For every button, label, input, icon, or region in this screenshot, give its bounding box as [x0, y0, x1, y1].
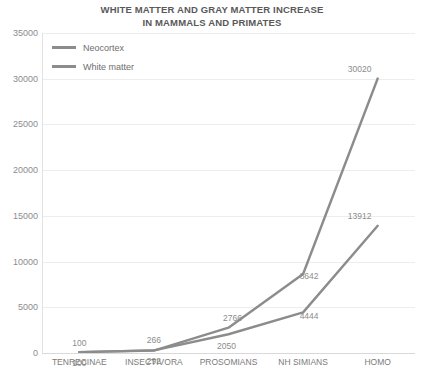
chart-title-line-1: WHITE MATTER AND GRAY MATTER INCREASE [0, 4, 424, 17]
data-label: 8642 [300, 271, 319, 281]
y-axis-tick-label: 5000 [0, 302, 38, 312]
data-label: 100 [72, 338, 86, 348]
legend-item-neocortex[interactable]: Neocortex [52, 39, 134, 56]
chart-title: WHITE MATTER AND GRAY MATTER INCREASE IN… [0, 4, 424, 29]
x-axis-category-label: NH SIMIANS [278, 357, 328, 367]
data-label: 2766 [223, 313, 242, 323]
series-line-white-matter [79, 226, 377, 352]
y-axis-tick-label: 15000 [0, 211, 38, 221]
x-axis-category-label: TENRECINAE [52, 357, 107, 367]
legend-swatch-neocortex [52, 46, 76, 49]
plot-area: 10026627668642300201002922050444413912 [42, 33, 415, 353]
y-axis-tick-label: 30000 [0, 74, 38, 84]
chart-title-line-2: IN MAMMALS AND PRIMATES [0, 17, 424, 30]
legend-label-neocortex: Neocortex [83, 43, 124, 53]
data-label: 30020 [348, 64, 372, 74]
chart-container: WHITE MATTER AND GRAY MATTER INCREASE IN… [0, 0, 424, 384]
series-line-neocortex [79, 79, 377, 353]
x-axis-category-label: HOMO [364, 357, 390, 367]
data-label: 2050 [217, 341, 236, 351]
y-axis-tick-label: 20000 [0, 165, 38, 175]
x-axis-line [42, 353, 415, 354]
data-label: 266 [147, 335, 161, 345]
data-label: 13912 [348, 211, 372, 221]
series-lines [42, 33, 415, 353]
y-axis-tick-label: 0 [0, 348, 38, 358]
data-label: 4444 [300, 311, 319, 321]
legend-label-white-matter: White matter [83, 62, 134, 72]
legend-item-white-matter[interactable]: White matter [52, 58, 134, 75]
chart-legend: Neocortex White matter [52, 39, 134, 77]
legend-swatch-white-matter [52, 65, 76, 68]
x-axis-category-label: PROSOMIANS [200, 357, 258, 367]
y-axis-tick-label: 10000 [0, 257, 38, 267]
x-axis-category-label: INSECTIVORA [125, 357, 183, 367]
y-axis-line [42, 33, 43, 354]
y-axis-tick-label: 35000 [0, 28, 38, 38]
y-axis-tick-label: 25000 [0, 119, 38, 129]
